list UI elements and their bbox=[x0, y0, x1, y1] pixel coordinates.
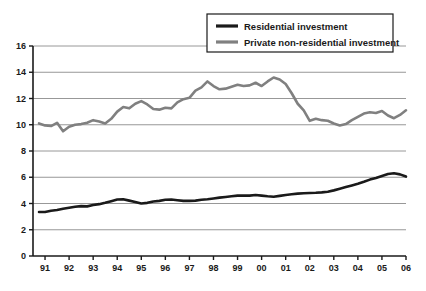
x-tick-label-06: 06 bbox=[401, 263, 411, 273]
x-tick-label-94: 94 bbox=[112, 263, 122, 273]
x-tick-label-98: 98 bbox=[208, 263, 218, 273]
x-tick-label-03: 03 bbox=[329, 263, 339, 273]
y-tick-label-8: 8 bbox=[21, 146, 26, 156]
y-tick-label-12: 12 bbox=[16, 94, 26, 104]
y-tick-label-16: 16 bbox=[16, 41, 26, 51]
legend: Residential investment Private non-resid… bbox=[207, 14, 400, 52]
x-tick-label-00: 00 bbox=[257, 263, 267, 273]
x-tick-label-91: 91 bbox=[40, 263, 50, 273]
x-tick-label-04: 04 bbox=[353, 263, 363, 273]
x-tick-label-99: 99 bbox=[233, 263, 243, 273]
line-chart: 0246810121416 91929394959697989900010203… bbox=[0, 0, 426, 291]
x-tick-label-01: 01 bbox=[281, 263, 291, 273]
y-tick-label-2: 2 bbox=[21, 225, 26, 235]
x-tick-label-97: 97 bbox=[184, 263, 194, 273]
y-tick-label-0: 0 bbox=[21, 251, 26, 261]
chart-page: 0246810121416 91929394959697989900010203… bbox=[0, 0, 426, 291]
x-tick-label-05: 05 bbox=[377, 263, 387, 273]
x-tick-label-96: 96 bbox=[160, 263, 170, 273]
legend-label-non-residential: Private non-residential investment bbox=[244, 37, 400, 48]
y-tick-label-10: 10 bbox=[16, 120, 26, 130]
legend-label-residential: Residential investment bbox=[244, 21, 348, 32]
y-tick-label-6: 6 bbox=[21, 172, 26, 182]
x-tick-label-93: 93 bbox=[88, 263, 98, 273]
y-tick-label-14: 14 bbox=[16, 67, 26, 77]
y-tick-label-4: 4 bbox=[21, 199, 26, 209]
x-tick-label-92: 92 bbox=[64, 263, 74, 273]
x-tick-label-02: 02 bbox=[305, 263, 315, 273]
x-tick-label-95: 95 bbox=[136, 263, 146, 273]
